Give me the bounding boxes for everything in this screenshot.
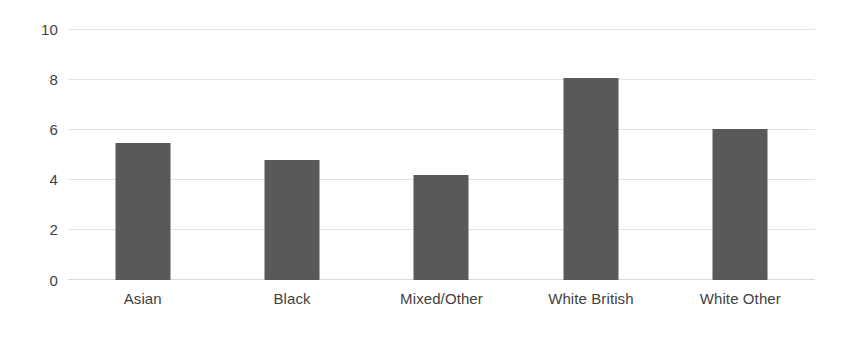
bar-asian xyxy=(115,143,170,281)
bar-mixed-other xyxy=(414,175,469,280)
x-tick-label-white-other: White Other xyxy=(700,288,781,310)
x-tick-label-white-british: White British xyxy=(548,288,634,310)
y-tick-label: 4 xyxy=(2,172,58,187)
y-tick-label: 2 xyxy=(2,222,58,237)
bar-slot xyxy=(68,29,217,280)
bar-white-british xyxy=(563,78,618,281)
x-tick-label-asian: Asian xyxy=(124,288,162,310)
plot-area xyxy=(68,29,815,280)
y-tick-label: 0 xyxy=(2,273,58,288)
y-tick-label: 8 xyxy=(2,72,58,87)
y-axis: 10 8 6 4 2 0 xyxy=(0,0,58,344)
bar-black xyxy=(265,160,320,280)
bar-chart: 10 8 6 4 2 0 Asian Black Mixed/O xyxy=(0,0,842,344)
bar-slot xyxy=(516,29,665,280)
x-axis: Asian Black Mixed/Other White British Wh… xyxy=(68,288,815,318)
x-tick-label-black: Black xyxy=(274,288,311,310)
y-tick-label: 10 xyxy=(2,22,58,37)
x-tick-label-mixed-other: Mixed/Other xyxy=(400,288,483,310)
bar-slot xyxy=(666,29,815,280)
bar-white-other xyxy=(713,129,768,280)
bar-slot xyxy=(217,29,366,280)
bar-slot xyxy=(367,29,516,280)
y-tick-label: 6 xyxy=(2,122,58,137)
